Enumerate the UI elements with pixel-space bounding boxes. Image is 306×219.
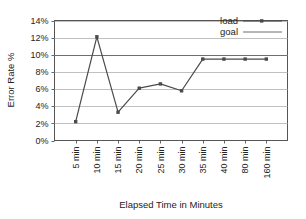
y-axis-title: Error Rate % <box>5 52 16 107</box>
x-tick-label-35-min: 35 min <box>198 146 208 173</box>
load-data-point-10-min <box>95 35 98 38</box>
error-rate-line-chart: 0%2%4%6%8%10%12%14% 5 min10 min15 min20 … <box>0 0 306 219</box>
y-tick-label-2%: 2% <box>35 119 48 129</box>
y-tick-label-12%: 12% <box>30 33 48 43</box>
y-tick-label-0%: 0% <box>35 136 48 146</box>
x-tick-label-160-min: 160 min <box>262 147 272 179</box>
load-data-point-35-min <box>201 57 204 60</box>
legend-item-load-label: load <box>220 15 238 26</box>
load-data-point-5-min <box>74 120 77 123</box>
y-tick-label-6%: 6% <box>35 84 48 94</box>
load-data-point-80-min <box>243 57 246 60</box>
x-tick-label-10-min: 10 min <box>92 146 102 173</box>
x-tick-label-40-min: 40 min <box>219 146 229 173</box>
y-tick-label-4%: 4% <box>35 101 48 111</box>
x-tick-label-5-min: 5 min <box>71 146 81 168</box>
legend-item-goal-label: goal <box>220 26 238 37</box>
load-data-point-15-min <box>116 111 119 114</box>
load-data-point-40-min <box>222 57 225 60</box>
x-tick-label-20-min: 20 min <box>134 147 144 174</box>
load-data-point-20-min <box>138 87 141 90</box>
load-data-point-160-min <box>265 57 268 60</box>
x-tick-label-25-min: 25 min <box>156 147 166 174</box>
load-data-point-30-min <box>180 89 183 92</box>
y-tick-label-14%: 14% <box>30 16 48 26</box>
x-tick-label-80-min: 80 min <box>240 147 250 174</box>
y-tick-label-8%: 8% <box>35 67 48 77</box>
x-axis-title: Elapsed Time in Minutes <box>119 199 223 210</box>
y-tick-label-10%: 10% <box>30 50 48 60</box>
x-tick-label-30-min: 30 min <box>177 146 187 173</box>
load-data-point-25-min <box>159 82 162 85</box>
legend-load-marker-swatch <box>260 19 263 22</box>
x-tick-label-15-min: 15 min <box>113 147 123 174</box>
chart-container: 0%2%4%6%8%10%12%14% 5 min10 min15 min20 … <box>0 0 306 219</box>
